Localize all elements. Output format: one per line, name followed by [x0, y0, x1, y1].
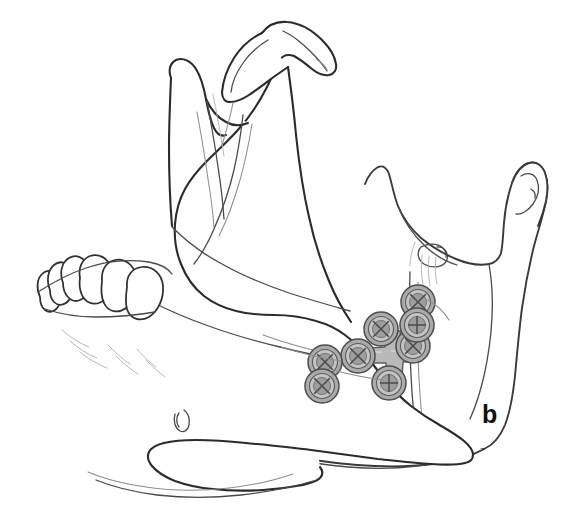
panel-label: b — [482, 402, 497, 427]
free-screw-lower-left[interactable] — [305, 369, 339, 403]
mental-region-details — [62, 330, 189, 432]
ramus-near-anterior-border — [169, 78, 172, 226]
mandible-illustration — [0, 0, 569, 516]
plate-screw-superior[interactable] — [364, 312, 398, 346]
alveolar-striation-4 — [108, 345, 130, 364]
coronoid-near — [170, 59, 226, 136]
alveolar-striation-6 — [137, 349, 156, 367]
alveolar-striation-5 — [116, 356, 138, 374]
alveolar-teeth — [38, 255, 172, 319]
plate-screw-inferior[interactable] — [372, 366, 406, 400]
alveolar-striation-7 — [146, 360, 165, 377]
mental-foramen-rim — [177, 413, 179, 427]
figure-panel: b — [0, 0, 569, 516]
alveolar-striation-1 — [62, 330, 89, 347]
alveolar-striation-3 — [80, 352, 107, 368]
tooth-6 — [126, 267, 163, 319]
plate-screw-anterior[interactable] — [341, 339, 375, 373]
ramus-near-posterior-sweep — [288, 67, 351, 322]
free-screw-lower-right[interactable] — [400, 308, 434, 342]
